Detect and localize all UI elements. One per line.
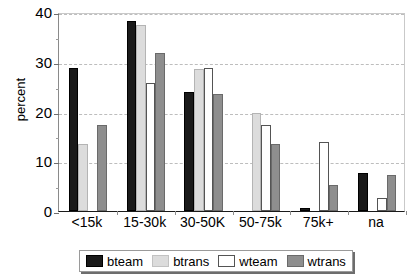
y-tick-label: 0 [16, 204, 52, 219]
y-tick-mark-minor [56, 138, 59, 139]
x-tick-mark [406, 211, 407, 215]
bar [127, 21, 137, 211]
y-tick-mark-minor [56, 39, 59, 40]
bar [300, 208, 310, 211]
legend-label: wteam [239, 255, 277, 268]
bar [155, 53, 165, 211]
y-tick-mark [54, 114, 59, 115]
bar [271, 144, 281, 211]
bar [78, 144, 88, 211]
y-tick-label: 40 [16, 5, 52, 20]
bar [387, 175, 397, 211]
plot-area [58, 13, 405, 212]
y-tick-label: 30 [16, 55, 52, 70]
bar [377, 198, 387, 211]
bar [184, 92, 194, 211]
bar [97, 125, 107, 211]
chart-legend: bteambtranswteamwtrans [79, 250, 353, 272]
bar [213, 94, 223, 211]
bar [194, 69, 204, 211]
x-category-label: 30-50K [174, 214, 232, 230]
dark-gray-swatch [287, 255, 304, 267]
black-swatch [86, 255, 103, 267]
gridline [59, 163, 404, 164]
legend-entry-btrans[interactable]: btrans [152, 255, 209, 268]
bar [146, 83, 156, 211]
legend-entry-wteam[interactable]: wteam [218, 255, 277, 268]
y-tick-mark [54, 163, 59, 164]
y-tick-mark-minor [56, 89, 59, 90]
light-gray-swatch [152, 255, 169, 267]
x-category-label: <15k [58, 214, 116, 230]
bar [69, 68, 79, 211]
legend-entry-bteam[interactable]: bteam [86, 255, 143, 268]
legend-label: wtrans [308, 255, 346, 268]
x-category-label: 50-75k [232, 214, 290, 230]
legend-label: bteam [107, 255, 143, 268]
x-category-label: na [347, 214, 405, 230]
gridline [59, 64, 404, 65]
gridline [59, 114, 404, 115]
legend-entry-wtrans[interactable]: wtrans [287, 255, 346, 268]
bar [252, 113, 262, 212]
white-swatch [218, 255, 235, 267]
x-category-label: 75k+ [289, 214, 347, 230]
legend-label: btrans [173, 255, 209, 268]
x-category-label: 15-30k [116, 214, 174, 230]
bar [261, 125, 271, 211]
bar [358, 173, 368, 211]
y-tick-label: 20 [16, 105, 52, 120]
y-tick-label: 10 [16, 154, 52, 169]
y-tick-mark [54, 64, 59, 65]
y-tick-mark [54, 14, 59, 15]
bar [204, 68, 214, 211]
bar [329, 185, 339, 211]
bar [136, 25, 146, 211]
y-tick-mark-minor [56, 188, 59, 189]
bar-chart: percent 010203040 <15k15-30k30-50K50-75k… [0, 0, 418, 279]
gridline [59, 14, 404, 15]
bar [319, 142, 329, 211]
